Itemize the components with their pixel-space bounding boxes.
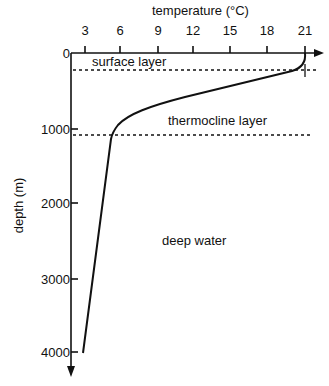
x-axis-arrow-icon xyxy=(314,49,324,57)
temperature-profile-line xyxy=(83,53,305,353)
y-axis-arrow-icon xyxy=(67,366,75,377)
x-axis xyxy=(71,46,318,53)
y-axis xyxy=(71,53,78,370)
chart-plot xyxy=(0,0,329,386)
